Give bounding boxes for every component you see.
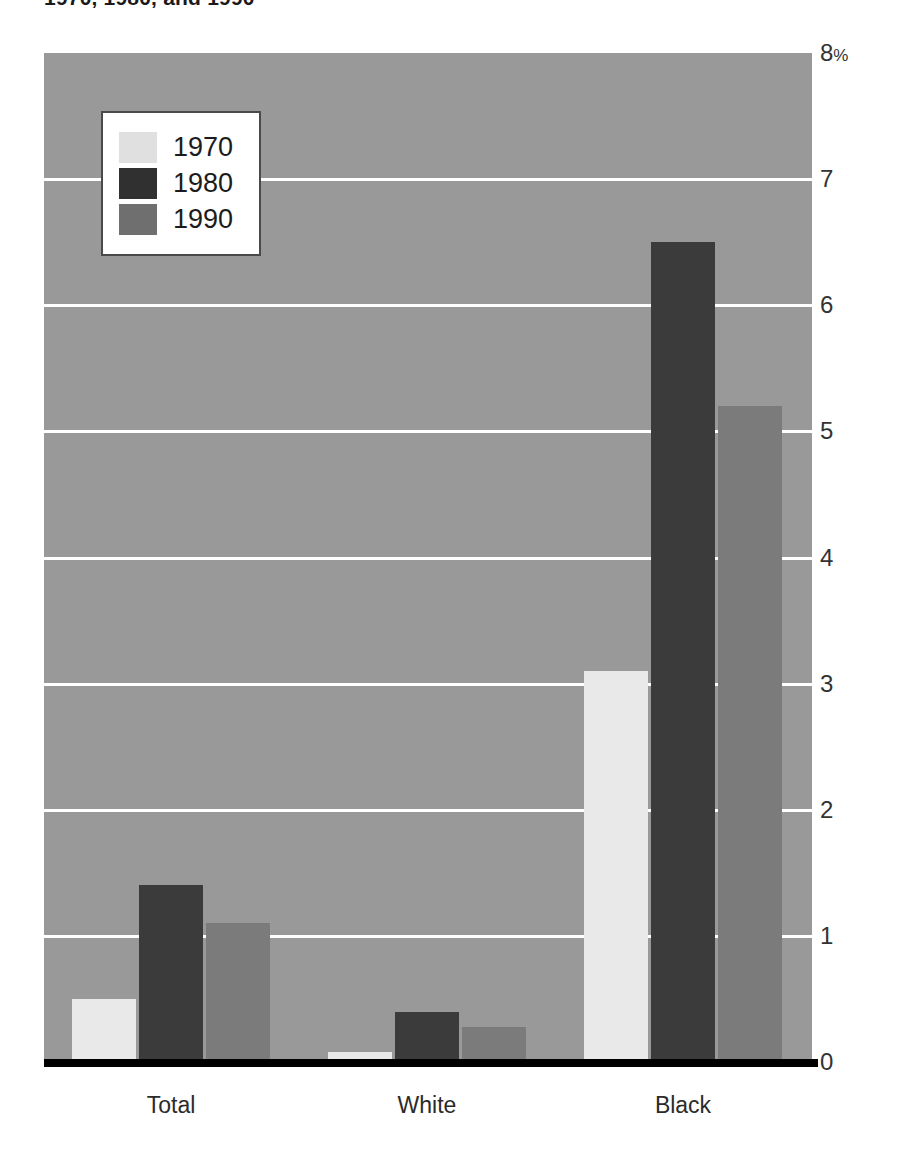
y-tick-label-6: 6 bbox=[820, 293, 833, 317]
y-tick-label-2: 2 bbox=[820, 798, 833, 822]
y-tick-label-5: 5 bbox=[820, 419, 833, 443]
chart-legend: 1970 1980 1990 bbox=[101, 111, 261, 256]
legend-label-1990: 1990 bbox=[173, 206, 233, 233]
legend-swatch-1980-icon bbox=[119, 168, 157, 199]
legend-item-1990[interactable]: 1990 bbox=[119, 204, 233, 235]
legend-item-1980[interactable]: 1980 bbox=[119, 168, 233, 199]
legend-swatch-1990-icon bbox=[119, 204, 157, 235]
bar-black-1980 bbox=[651, 242, 715, 1062]
legend-item-1970[interactable]: 1970 bbox=[119, 132, 233, 163]
bar-total-1980 bbox=[139, 885, 203, 1062]
bar-total-1970 bbox=[72, 999, 136, 1062]
y-tick-label-7: 7 bbox=[820, 167, 833, 191]
bar-black-1970 bbox=[584, 671, 648, 1062]
y-tick-label-3: 3 bbox=[820, 672, 833, 696]
y-tick-label-4: 4 bbox=[820, 546, 833, 570]
chart-title: 1970, 1980, and 1990 bbox=[44, 0, 255, 10]
y-tick-label-1: 1 bbox=[820, 924, 833, 948]
legend-swatch-1970-icon bbox=[119, 132, 157, 163]
x-axis-label-total: Total bbox=[147, 1092, 196, 1119]
legend-label-1970: 1970 bbox=[173, 134, 233, 161]
bar-total-1990 bbox=[206, 923, 270, 1062]
bar-white-1980 bbox=[395, 1012, 459, 1062]
bar-black-1990 bbox=[718, 406, 782, 1062]
legend-label-1980: 1980 bbox=[173, 170, 233, 197]
y-tick-label-0: 0 bbox=[820, 1050, 833, 1074]
bar-white-1990 bbox=[462, 1027, 526, 1062]
x-axis-label-black: Black bbox=[655, 1092, 711, 1119]
y-axis: 8%76543210 bbox=[820, 0, 890, 1173]
x-axis-label-white: White bbox=[398, 1092, 457, 1119]
y-tick-label-8: 8% bbox=[820, 41, 848, 65]
x-axis-baseline bbox=[44, 1059, 818, 1067]
